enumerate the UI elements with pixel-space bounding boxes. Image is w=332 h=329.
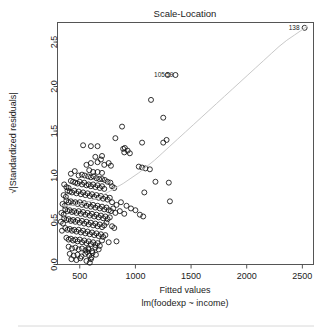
y-axis-label-text: √|Standardized residuals| — [8, 92, 18, 193]
chart-title: Scale-Location — [154, 8, 217, 19]
x-axis-sublabel: lm(foodexp ~ income) — [142, 298, 229, 308]
outlier-label-105: 105 — [154, 71, 165, 78]
y-tick-label: 0.0 — [49, 258, 59, 271]
y-tick-label: 0.5 — [49, 214, 59, 227]
y-axis-label: √|Standardized residuals| — [8, 92, 18, 193]
x-tick-label: 2000 — [237, 271, 257, 281]
y-tick-label: 2.5 — [49, 36, 59, 49]
x-tick-label: 1500 — [181, 271, 201, 281]
x-axis-label: Fitted values — [159, 285, 211, 295]
outlier-label-138: 138 — [289, 24, 300, 31]
outlier-label-59: 59 — [166, 71, 174, 78]
y-tick-label: 2.0 — [49, 80, 59, 93]
y-tick-label: 1.5 — [49, 125, 59, 138]
x-tick-label: 1000 — [125, 271, 145, 281]
plot-background — [0, 0, 332, 329]
x-tick-label: 500 — [72, 271, 87, 281]
y-tick-label: 1.0 — [49, 169, 59, 182]
x-tick-label: 2500 — [292, 271, 312, 281]
scale-location-plot: Scale-Location 0.00.51.01.52.02.5 500100… — [0, 0, 332, 329]
chart-canvas: Scale-Location 0.00.51.01.52.02.5 500100… — [0, 0, 332, 329]
